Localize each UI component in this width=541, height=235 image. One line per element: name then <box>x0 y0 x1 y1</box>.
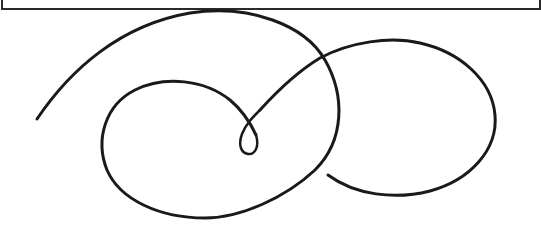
flourish-outer-arc <box>37 11 339 218</box>
flourish-small-loop <box>240 110 260 154</box>
flourish-right-swirl <box>260 40 495 195</box>
